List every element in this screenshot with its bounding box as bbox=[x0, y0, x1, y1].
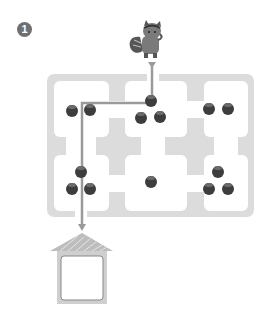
house-icon bbox=[50, 233, 113, 304]
squirrel-icon bbox=[130, 20, 162, 58]
maze-puzzle bbox=[0, 0, 269, 321]
